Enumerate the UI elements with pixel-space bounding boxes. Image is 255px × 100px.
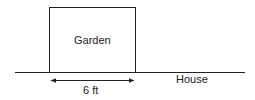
dimension-label: 6 ft	[83, 84, 98, 96]
house-label: House	[176, 73, 208, 85]
garden-label: Garden	[74, 34, 111, 46]
garden-diagram	[0, 0, 255, 100]
